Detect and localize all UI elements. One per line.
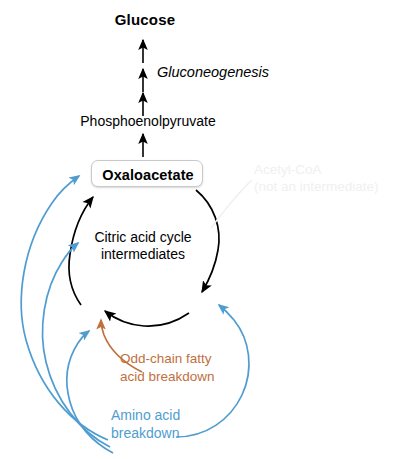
node-box-oxaloacetate: Oxaloacetate bbox=[91, 160, 203, 187]
cycle-label-line-1: Citric acid cycle bbox=[94, 229, 191, 246]
acetyl-coa-connector-line bbox=[211, 180, 252, 228]
pathway-label-gluconeogenesis: Gluconeogenesis bbox=[157, 64, 269, 81]
cycle-arc-bottom-leftward bbox=[105, 311, 189, 326]
amino-acid-line-2: breakdown bbox=[111, 424, 180, 442]
cycle-label-line-2: intermediates bbox=[94, 246, 191, 263]
cycle-arc-left-ascending bbox=[69, 197, 93, 305]
annotation-acetyl-coa: Acetyl-CoA (not an intermediate) bbox=[254, 161, 379, 196]
amino-acid-arrow-to-oxaloacetate-outer bbox=[21, 176, 108, 440]
node-label-citric-acid-cycle: Citric acid cycle intermediates bbox=[94, 229, 191, 262]
diagram-canvas: Glucose Gluconeogenesis Phosphoenolpyruv… bbox=[0, 0, 397, 459]
node-label-phosphoenolpyruvate: Phosphoenolpyruvate bbox=[80, 113, 215, 130]
acetyl-coa-line-2: (not an intermediate) bbox=[254, 178, 379, 195]
node-label-oxaloacetate: Oxaloacetate bbox=[92, 161, 204, 188]
annotation-amino-acid-breakdown: Amino acid breakdown bbox=[111, 406, 180, 443]
annotation-odd-chain-fatty-acid-breakdown: Odd-chain fatty acid breakdown bbox=[120, 350, 215, 385]
amino-acid-line-1: Amino acid bbox=[111, 406, 180, 424]
odd-chain-line-1: Odd-chain fatty bbox=[120, 350, 215, 368]
cycle-arc-right-descending bbox=[196, 190, 219, 292]
node-label-glucose: Glucose bbox=[115, 11, 176, 29]
acetyl-coa-line-1: Acetyl-CoA bbox=[254, 161, 379, 178]
odd-chain-line-2: acid breakdown bbox=[120, 368, 215, 386]
